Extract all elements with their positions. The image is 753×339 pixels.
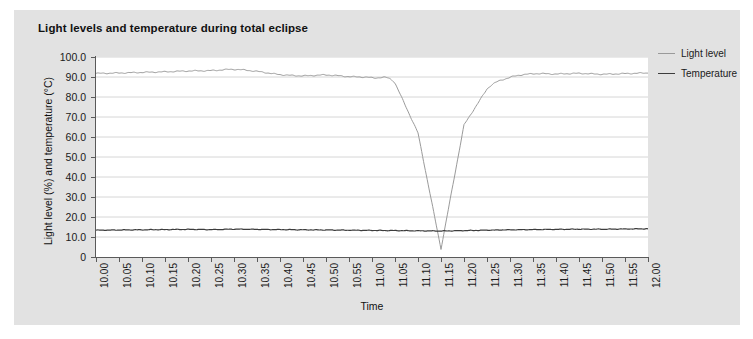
plot-area [96,57,648,257]
legend-swatch-icon [658,53,675,54]
x-axis-tick [464,258,465,262]
y-axis-tick-label: 100.0 [60,52,86,62]
gridlines [96,57,648,237]
y-axis-tick-label: 70.0 [66,112,86,122]
x-axis-tick [648,258,649,262]
y-axis-tick-label: 90.0 [66,72,86,82]
x-axis-tick-label: 11.35 [537,263,547,287]
x-axis-tick-label: 10.55 [353,263,363,288]
series-line [96,69,648,249]
x-axis-tick [257,258,258,262]
y-axis-tick-labels: 100.090.080.070.060.050.040.030.020.010.… [34,0,86,339]
plot-svg [96,57,648,257]
x-axis-tick-label: 10.35 [261,263,271,288]
y-axis-title-wrap: Light level (%) and temperature (°C) [20,95,34,245]
y-axis-tick-label: 40.0 [66,172,86,182]
x-axis-tick-label: 11.40 [560,263,570,287]
x-axis-tick-label: 11.20 [468,263,478,287]
chart-screenshot: Light levels and temperature during tota… [0,0,753,339]
x-axis-tick [211,258,212,262]
x-axis-tick [280,258,281,262]
x-axis-tick-label: 10.25 [215,263,225,288]
x-axis-tick [303,258,304,262]
x-axis-tick-label: 10.40 [284,263,294,288]
legend-label: Light level [681,48,726,59]
x-axis-title: Time [96,300,648,312]
x-axis-tick-label: 11.55 [629,263,639,287]
x-axis-tick-label: 10.30 [238,263,248,288]
legend-label: Temperature [681,68,737,79]
x-axis-tick-label: 11.45 [583,263,593,287]
x-axis-tick [96,258,97,262]
x-axis-tick-label: 11.30 [514,263,524,287]
x-axis-tick-label: 10.05 [123,263,133,288]
x-axis-tick-label: 11.25 [491,263,501,287]
legend-item: Light level [658,48,750,59]
x-axis-tick-label: 11.10 [422,263,432,287]
x-axis-tick [418,258,419,262]
y-axis-tick-label: 0 [80,252,86,262]
legend-item: Temperature [658,68,750,79]
x-axis-tick-label: 11.00 [376,263,386,287]
x-axis-tick-label: 11.15 [445,263,455,287]
x-axis-tick [441,258,442,262]
x-axis-tick [142,258,143,262]
x-axis-tick [533,258,534,262]
y-axis-tick-label: 50.0 [66,152,86,162]
legend-swatch-icon [658,73,675,74]
x-axis-tick [395,258,396,262]
x-axis-tick [165,258,166,262]
x-axis-tick [556,258,557,262]
y-axis-tick-label: 80.0 [66,92,86,102]
y-axis-tick-label: 30.0 [66,192,86,202]
x-axis-tick [349,258,350,262]
x-axis-tick [602,258,603,262]
chart-legend: Light levelTemperature [658,48,750,88]
x-axis-tick-label: 10.15 [169,263,179,288]
y-axis-tick-label: 60.0 [66,132,86,142]
y-axis-tick-label: 10.0 [66,232,86,242]
x-axis-tick-label: 10.10 [146,263,156,288]
x-axis-tick [234,258,235,262]
x-axis-tick [487,258,488,262]
x-axis-tick [510,258,511,262]
x-axis-tick-label: 10.50 [330,263,340,288]
x-axis-tick [372,258,373,262]
x-axis-tick [119,258,120,262]
series-lines [96,69,648,249]
x-axis-tick-label: 11.05 [399,263,409,287]
x-axis-tick [188,258,189,262]
x-axis-tick-label: 10.00 [100,263,110,288]
x-axis-tick-label: 10.20 [192,263,202,288]
x-axis-tick [326,258,327,262]
x-axis-tick [579,258,580,262]
series-line [96,229,648,232]
x-axis-tick-label: 11.50 [606,263,616,287]
y-axis-tick-label: 20.0 [66,212,86,222]
x-axis-tick-label: 10.45 [307,263,317,288]
x-axis-tick-label: 12.00 [652,263,662,288]
x-axis-tick [625,258,626,262]
